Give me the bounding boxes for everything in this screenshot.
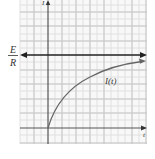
grid	[20, 0, 147, 144]
curve-label: I(t)	[104, 76, 117, 86]
asymptote-numerator: E	[9, 44, 16, 55]
asymptote-label: E R	[8, 44, 18, 68]
asymptote-denominator: R	[9, 57, 16, 68]
rl-current-graph: t I E R I(t)	[0, 0, 155, 159]
